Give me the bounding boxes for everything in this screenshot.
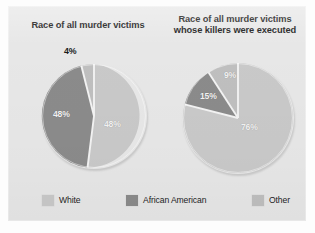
legend-label-african-american: African American — [143, 195, 206, 205]
right-label-white: 76% — [241, 122, 258, 132]
right-label-african-american: 15% — [200, 91, 217, 101]
right-label-other: 9% — [224, 70, 236, 80]
left-label-african-american: 48% — [53, 109, 70, 119]
left-chart-title: Race of all murder victims — [14, 20, 162, 31]
figure-canvas: Race of all murder victims Race of all m… — [0, 0, 315, 233]
legend-item-other: Other — [252, 195, 290, 206]
left-label-white: 48% — [104, 119, 121, 129]
right-chart-title-line2: whose killers were executed — [174, 25, 296, 35]
left-label-other: 4% — [64, 46, 76, 56]
legend-item-african-american: African American — [126, 195, 206, 206]
legend-swatch-other — [252, 195, 264, 206]
legend: White African American Other — [42, 191, 290, 209]
left-slice-white — [88, 64, 140, 168]
right-pie-svg — [182, 62, 294, 174]
right-chart-title: Race of all murder victims whose killers… — [160, 14, 310, 37]
right-pie-disc — [182, 62, 294, 174]
legend-item-white: White — [42, 195, 80, 206]
chart-panel: Race of all murder victims Race of all m… — [8, 6, 306, 221]
legend-swatch-white — [42, 195, 54, 206]
legend-swatch-african-american — [126, 195, 138, 206]
right-chart-title-line1: Race of all murder victims — [178, 14, 291, 24]
legend-label-white: White — [59, 195, 80, 205]
right-pie-chart — [182, 62, 294, 174]
legend-label-other: Other — [269, 195, 290, 205]
